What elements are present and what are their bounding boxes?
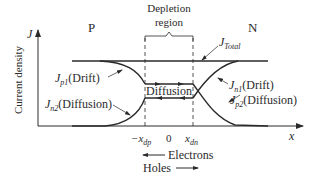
x-axis-symbol: x bbox=[288, 129, 295, 143]
tick-xdn: xdn bbox=[184, 132, 198, 147]
jp2-diffusion-label: Jp2(Diffusion) bbox=[230, 93, 297, 109]
jn2-leader bbox=[113, 105, 130, 115]
center-diffusion-label: Diffusion bbox=[146, 84, 192, 98]
y-axis-label: Current density bbox=[12, 45, 24, 114]
jp1-leader bbox=[108, 70, 122, 77]
depletion-label-line1: Depletion bbox=[147, 2, 191, 14]
depletion-brace bbox=[145, 32, 193, 41]
p-region-label: P bbox=[88, 20, 95, 35]
y-axis-symbol: J bbox=[27, 27, 33, 41]
jn1-drift-label: Jn1(Drift) bbox=[229, 78, 274, 94]
pn-junction-diagram: P N Depletion region Current density J x… bbox=[0, 0, 311, 181]
jp1-drift-label: Jp1(Drift) bbox=[55, 71, 100, 87]
jn2-diffusion-label: Jn2(Diffusion) bbox=[45, 97, 112, 113]
tick-zero: 0 bbox=[166, 132, 172, 144]
depletion-label-line2: region bbox=[155, 16, 184, 28]
j-total-leader bbox=[202, 46, 218, 60]
holes-label: Holes bbox=[143, 161, 171, 175]
j-total-label: JTotal bbox=[219, 35, 241, 51]
n-region-label: N bbox=[248, 20, 258, 35]
jp1-drift-curve bbox=[100, 61, 145, 84]
electrons-label: Electrons bbox=[168, 148, 214, 162]
tick-neg-xdp: −xdp bbox=[131, 132, 151, 147]
jn1-leader bbox=[218, 78, 228, 84]
